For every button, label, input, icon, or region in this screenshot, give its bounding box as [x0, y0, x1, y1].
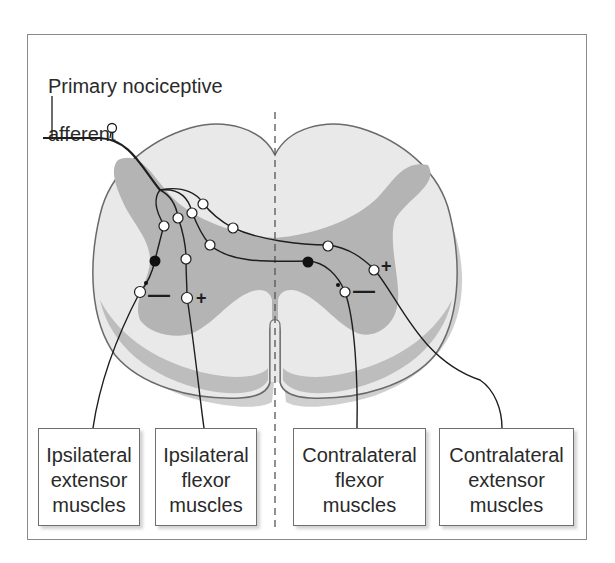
muscle-label-line: extensor — [51, 468, 128, 493]
muscle-label-line: muscles — [323, 493, 396, 518]
sign-ipsilateral-flexor: + — [196, 288, 207, 308]
muscle-label-line: flexor — [335, 468, 384, 493]
synapse-icon — [182, 293, 193, 304]
muscle-box-ipsilateral-extensor: Ipsilateral extensor muscles — [38, 428, 140, 526]
inhibitory-interneuron-icon — [150, 256, 161, 267]
synapse-icon — [205, 240, 215, 250]
sign-contralateral-extensor: + — [381, 256, 392, 276]
muscle-box-ipsilateral-flexor: Ipsilateral flexor muscles — [155, 428, 257, 526]
muscle-label-line: muscles — [470, 493, 543, 518]
muscle-label-line: extensor — [468, 468, 545, 493]
synapse-icon — [340, 287, 350, 297]
drg-cell-body-icon — [108, 124, 117, 133]
muscle-label-line: Ipsilateral — [163, 443, 249, 468]
synapse-icon — [228, 223, 238, 233]
synapse-icon — [159, 221, 169, 231]
muscle-label-line: Contralateral — [302, 443, 417, 468]
muscle-box-contralateral-extensor: Contralateral extensor muscles — [439, 428, 574, 526]
inhibitory-terminal-icon — [336, 283, 340, 287]
muscle-label-line: muscles — [52, 493, 125, 518]
inhibitory-interneuron-icon — [303, 257, 314, 268]
muscle-box-contralateral-flexor: Contralateral flexor muscles — [293, 428, 426, 526]
sign-ipsilateral-extensor: — — [148, 282, 170, 307]
synapse-icon — [198, 199, 208, 209]
synapse-icon — [187, 208, 197, 218]
muscle-label-line: Contralateral — [449, 443, 564, 468]
synapse-icon — [135, 287, 146, 298]
synapse-icon — [323, 241, 333, 251]
muscle-label-line: muscles — [169, 493, 242, 518]
muscle-label-line: Ipsilateral — [46, 443, 132, 468]
synapse-icon — [369, 265, 379, 275]
synapse-icon — [181, 254, 191, 264]
sign-contralateral-flexor: — — [353, 278, 375, 303]
synapse-icon — [173, 213, 183, 223]
muscle-label-line: flexor — [182, 468, 231, 493]
